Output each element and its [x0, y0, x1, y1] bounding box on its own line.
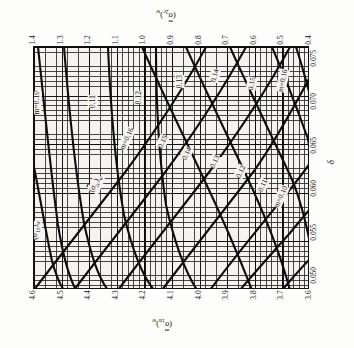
rotated-figure-stage: (σ2c)w 1.41.31.21.11.00.90.80.70.60.50.4	[0, 0, 354, 348]
delta-tick-5: 0.075	[310, 50, 317, 67]
top-axis-title: (σ2c)w	[156, 8, 176, 20]
top-tick-10: 0.4	[305, 35, 312, 45]
top-tick-2: 1.2	[84, 35, 91, 45]
curve-b-2	[74, 47, 246, 289]
top-tick-1: 1.3	[57, 35, 64, 45]
top-tick-5: 0.9	[167, 35, 174, 45]
bottom-tick-7: 3.9	[222, 290, 229, 300]
bottom-tick-3: 4.3	[112, 290, 119, 300]
curve-c-1	[142, 47, 252, 289]
curve-label-013-upper: 0.13	[175, 75, 185, 88]
bottom-tick-9: 3.7	[277, 290, 284, 300]
bottom-tick-0: 4.6	[29, 290, 36, 300]
bottom-tick-2: 4.4	[84, 290, 91, 300]
top-tick-6: 0.8	[195, 35, 202, 45]
top-tick-4: 1.0	[139, 35, 146, 45]
curve-c-5	[296, 47, 309, 95]
bottom-axis-title: (σ1n)w	[152, 317, 172, 329]
top-tick-7: 0.7	[222, 35, 229, 45]
curve-label-m010-upper: m=0.10	[33, 91, 42, 114]
top-tick-0: 1.4	[29, 35, 36, 45]
delta-tick-4: 0.070	[310, 93, 317, 110]
curve-b-6	[240, 209, 309, 289]
curve-label-011-upper: 0.11	[88, 95, 98, 108]
delta-axis-title: δ	[327, 160, 337, 164]
top-tick-3: 1.1	[112, 35, 119, 45]
bottom-tick-10: 3.6	[305, 290, 312, 300]
bottom-tick-4: 4.2	[139, 290, 146, 300]
delta-tick-2: 0.060	[310, 180, 317, 197]
delta-tick-3: 0.065	[310, 137, 317, 154]
curve-b-3	[118, 47, 290, 289]
bottom-tick-1: 4.5	[57, 290, 64, 300]
figure-page: (σ2c)w 1.41.31.21.11.00.90.80.70.60.50.4	[0, 0, 354, 348]
curve-c-4	[272, 47, 309, 157]
delta-tick-1: 0.055	[310, 224, 317, 241]
top-axis-ticks: 1.41.31.21.11.00.90.80.70.60.50.4	[33, 26, 309, 45]
right-axis-ticks: 0.0500.0550.0600.0650.0700.075	[309, 46, 331, 289]
bottom-tick-8: 3.8	[250, 290, 257, 300]
plot-area: m=0.10 0.11 0.12 0.13 0.14 0.15 m=0.16 m…	[33, 46, 309, 289]
bottom-tick-6: 4.0	[195, 290, 202, 300]
bottom-tick-5: 4.1	[167, 290, 174, 300]
bottom-axis-ticks: 4.64.54.44.34.24.14.03.93.83.73.6	[33, 290, 309, 310]
top-tick-8: 0.6	[250, 35, 257, 45]
top-tick-9: 0.5	[277, 35, 284, 45]
curve-set	[34, 47, 309, 289]
curve-label-012-upper: 0.12	[134, 91, 144, 104]
delta-tick-0: 0.050	[310, 267, 317, 284]
family-label-sigma-1n: (σ1n)w	[33, 221, 42, 240]
curve-a-1	[38, 47, 76, 289]
